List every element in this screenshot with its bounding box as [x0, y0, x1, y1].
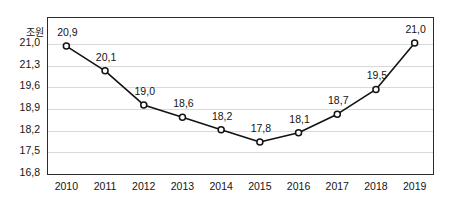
line-chart: 조원 16,817,518,218,919,621,321,0 20102011…: [0, 0, 458, 201]
x-axis-tick-label: 2013: [171, 180, 194, 192]
data-point-label: 19,0: [135, 85, 155, 97]
x-axis-tick-label: 2014: [209, 180, 232, 192]
data-point-label: 18,1: [289, 113, 309, 125]
x-axis-tick-label: 2018: [364, 180, 387, 192]
data-point-label: 20,1: [96, 51, 116, 63]
x-axis-tick-label: 2017: [326, 180, 349, 192]
y-axis-tick-label: 17,5: [8, 144, 40, 156]
data-point-label: 19,5: [367, 69, 387, 81]
y-axis-tick-label: 18,2: [8, 123, 40, 135]
y-axis-tick-label: 19,6: [8, 79, 40, 91]
y-axis-tick-label: 21,0: [8, 36, 40, 48]
x-axis-tick-label: 2016: [287, 180, 310, 192]
data-point-label: 18,2: [212, 110, 232, 122]
gridline: [48, 44, 433, 45]
x-axis-tick-label: 2012: [132, 180, 155, 192]
gridline: [48, 109, 433, 110]
data-point-label: 18,6: [173, 97, 193, 109]
y-axis-tick-label: 16,8: [8, 166, 40, 178]
x-axis-tick-label: 2010: [55, 180, 78, 192]
data-point-label: 17,8: [251, 122, 271, 134]
x-axis-tick-label: 2019: [403, 180, 426, 192]
gridline: [48, 66, 433, 67]
y-axis-tick-label: 21,3: [8, 58, 40, 70]
data-point-label: 20,9: [57, 26, 77, 38]
gridline: [48, 152, 433, 153]
data-point-label: 18,7: [328, 94, 348, 106]
data-point-label: 21,0: [405, 23, 425, 35]
x-axis-tick-label: 2011: [94, 180, 117, 192]
gridline: [48, 131, 433, 132]
gridline: [48, 87, 433, 88]
plot-area: [47, 17, 434, 175]
y-axis-tick-label: 18,9: [8, 101, 40, 113]
x-axis-tick-label: 2015: [248, 180, 271, 192]
